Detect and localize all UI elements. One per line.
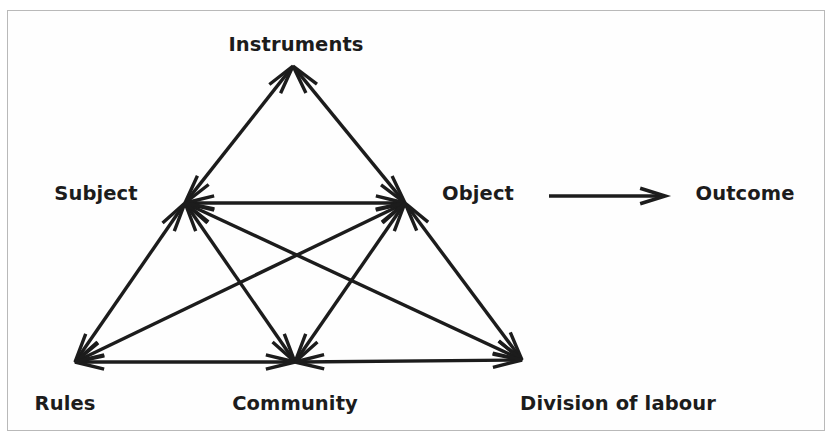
edge-layer — [75, 66, 665, 369]
node-label-instruments: Instruments — [228, 35, 363, 55]
node-label-rules: Rules — [35, 394, 96, 414]
edge-object-to-division — [405, 203, 522, 360]
node-label-subject: Subject — [54, 184, 137, 204]
edge-instruments-to-object — [293, 66, 405, 203]
activity-triangle-svg — [0, 0, 832, 446]
edge-object-to-community — [295, 203, 405, 362]
node-label-outcome: Outcome — [696, 184, 795, 204]
edge-community-to-division — [295, 353, 522, 369]
node-label-division: Division of labour — [520, 394, 716, 414]
edge-subject-to-instruments — [185, 66, 293, 203]
edge-object-to-outcome — [549, 188, 665, 203]
edge-subject-to-rules — [75, 203, 185, 362]
edge-rules-to-community — [75, 355, 295, 369]
node-label-community: Community — [232, 394, 358, 414]
edge-subject-to-object — [185, 196, 405, 210]
node-label-object: Object — [442, 184, 514, 204]
diagram-canvas: InstrumentsSubjectObjectOutcomeRulesComm… — [0, 0, 832, 446]
